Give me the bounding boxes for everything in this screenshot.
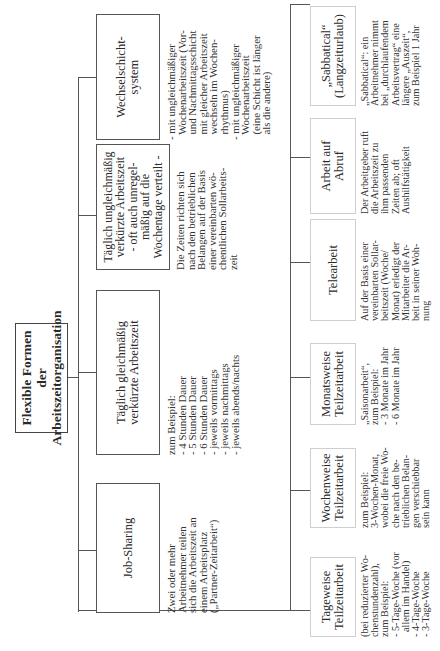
desc-taeglich-ungleichmaessig: Die Zeiten richten sich nach den betrieb… xyxy=(175,168,239,270)
box-taeglich-gleichmaessig: Täglich gleichmäßig verkürzte Arbeitszei… xyxy=(96,290,160,455)
desc-taeglich-gleichmaessig: zum Beispiel: - 4 Stunden Dauer - 5 Stun… xyxy=(166,355,240,455)
drop-line-abruf xyxy=(290,157,310,158)
root-connector xyxy=(68,377,78,378)
box-sabbatical: „Sabbatical“ (Langzeiturlaub) xyxy=(310,6,356,106)
desc-sabbatical: „Sabbatical“: ein Arbeitnehmer nimmt bei… xyxy=(360,20,421,106)
desc-monatsweise: „Saisonarbeit“, zum Beispiel: - 3 Monate… xyxy=(360,347,401,425)
desc-wechselschicht: - mit ungleichmäßiger Wochenarbeitszeit … xyxy=(166,30,272,140)
root-box: Flexible Formen der Arbeitszeitorganisat… xyxy=(15,323,68,433)
desc-arbeit-auf-abruf: Der Arbeitgeber ruft die Arbeitszeit zu … xyxy=(360,131,411,214)
label-monatsweise: Monatsweise Teilzeitarbeit xyxy=(320,351,346,417)
bottom-row-bus-line xyxy=(290,5,291,611)
desc-telearbeit: Auf der Basis einer vereinbarten Sollar-… xyxy=(360,240,431,321)
drop-line-telearbeit xyxy=(290,262,310,263)
label-wechselschicht: Wechselschicht- system xyxy=(115,36,141,118)
label-sabbatical: „Sabbatical“ (Langzeiturlaub) xyxy=(320,14,346,98)
box-wechselschicht: Wechselschicht- system xyxy=(96,14,160,140)
box-wochenweise: Wochenweise Teilzeitarbeit xyxy=(310,448,356,528)
drop-line-sabbatical xyxy=(290,4,310,5)
box-tageweise: Tageweise Teilzeitarbeit xyxy=(310,557,356,637)
drop-line-wechselschicht xyxy=(78,77,96,78)
label-tageweise: Tageweise Teilzeitarbeit xyxy=(320,564,346,630)
diagram-canvas: Flexible Formen der Arbeitszeitorganisat… xyxy=(0,0,440,651)
drop-line-taeglich-gleich xyxy=(78,372,96,373)
root-title: Flexible Formen der Arbeitszeitorganisat… xyxy=(19,311,64,446)
drop-line-tageweise xyxy=(290,610,310,611)
desc-job-sharing: Zwei oder mehr Arbeitnehmer teilen sich … xyxy=(166,517,219,613)
desc-tageweise: (bei reduzierter Wo- chenstundenzahl), z… xyxy=(360,552,431,637)
drop-line-monatsweise xyxy=(290,377,310,378)
drop-line-taeglich-ungleich xyxy=(78,215,96,216)
label-job-sharing: Job-Sharing xyxy=(122,518,135,578)
label-wochenweise: Wochenweise Teilzeitarbeit xyxy=(320,453,346,522)
desc-wochenweise: zum Beispiel: 3-Wochen-Monat, wobei die … xyxy=(360,447,431,528)
label-taeglich-gleichmaessig: Täglich gleichmäßig verkürzte Arbeitszei… xyxy=(115,320,141,424)
box-telearbeit: Telearbeit xyxy=(310,219,356,321)
label-taeglich-ungleichmaessig: Täglich ungleichmäßig verkürzte Arbeitsz… xyxy=(102,152,165,263)
top-row-bus-line xyxy=(78,78,79,612)
drop-line-wochenweise xyxy=(290,490,310,491)
box-job-sharing: Job-Sharing xyxy=(96,483,160,613)
box-arbeit-auf-abruf: Arbeit auf Abruf xyxy=(310,118,356,214)
box-taeglich-ungleichmaessig: Täglich ungleichmäßig verkürzte Arbeitsz… xyxy=(96,144,170,270)
box-monatsweise: Monatsweise Teilzeitarbeit xyxy=(310,343,356,425)
drop-line-job-sharing xyxy=(78,550,96,551)
label-arbeit-auf-abruf: Arbeit auf Abruf xyxy=(320,140,346,191)
label-telearbeit: Telearbeit xyxy=(327,245,340,295)
